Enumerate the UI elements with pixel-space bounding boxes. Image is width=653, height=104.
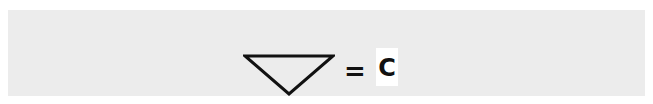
answer-box: C — [376, 48, 398, 86]
equals-sign: = — [343, 56, 367, 86]
answer-value: C — [376, 54, 398, 82]
inverted-triangle-icon — [243, 54, 335, 96]
